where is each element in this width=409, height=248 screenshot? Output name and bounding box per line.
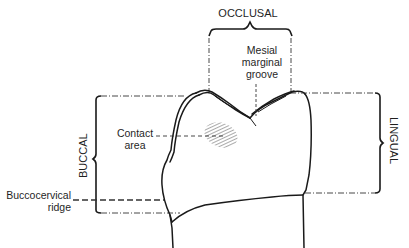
- label-line: Contact: [114, 127, 156, 139]
- lingual-label: LINGUAL: [388, 117, 400, 164]
- lingual-brace: [375, 93, 383, 193]
- occlusal-label: OCCLUSAL: [212, 7, 284, 19]
- mesial-marginal-groove-label: Mesial marginal groove: [236, 44, 288, 80]
- contact-area-shape: [201, 118, 241, 152]
- buccal-label: BUCCAL: [77, 133, 89, 178]
- tooth-outline: [162, 90, 311, 248]
- label-line: ridge: [2, 201, 71, 213]
- buccocervical-ridge-label: Buccocervical ridge: [2, 189, 71, 213]
- label-line: Buccocervical: [2, 189, 71, 201]
- occlusal-brace: [209, 22, 292, 36]
- label-line: groove: [236, 68, 288, 80]
- label-line: Mesial: [236, 44, 288, 56]
- contact-area-label: Contact area: [114, 127, 156, 151]
- buccal-brace: [93, 96, 101, 213]
- label-line: area: [114, 139, 156, 151]
- label-line: marginal: [236, 56, 288, 68]
